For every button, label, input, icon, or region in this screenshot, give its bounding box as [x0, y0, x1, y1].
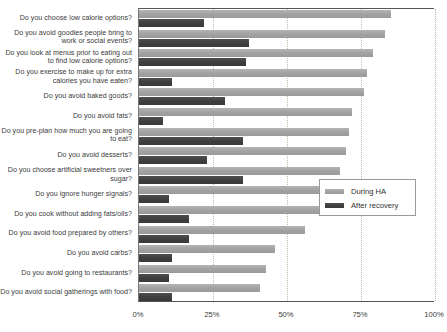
bar-during-ha: [139, 284, 260, 292]
category-label: Do you pre-plan how much you are going t…: [0, 127, 132, 144]
category-label: Do you choose low calorie options?: [0, 14, 132, 22]
category-axis-labels: Do you choose low calorie options?Do you…: [0, 8, 136, 302]
category-label: Do you ignore hunger signals?: [0, 190, 132, 198]
category-label: Do you avoid desserts?: [0, 151, 132, 159]
category-label: Do you avoid fats?: [0, 112, 132, 120]
category-label: Do you look at menus prior to eating out…: [0, 49, 132, 66]
x-axis-tick-label: 75%: [352, 310, 367, 319]
category-label: Do you choose artificial sweetners over …: [0, 166, 132, 183]
bar-after-recovery: [139, 176, 243, 184]
bar-during-ha: [139, 206, 328, 214]
category-label: Do you avoid food prepared by others?: [0, 229, 132, 237]
category-label: Do you avoid social gatherings with food…: [0, 288, 132, 296]
category-label: Do you exercise to make up for extra cal…: [0, 68, 132, 85]
x-axis-tick-label: 50%: [278, 310, 293, 319]
bar-during-ha: [139, 226, 305, 234]
bar-after-recovery: [139, 58, 246, 66]
bar-after-recovery: [139, 78, 172, 86]
bar-row: [139, 244, 434, 264]
bar-during-ha: [139, 49, 373, 57]
bar-row: [139, 264, 434, 284]
bar-row: [139, 283, 434, 303]
bar-after-recovery: [139, 19, 204, 27]
bar-during-ha: [139, 147, 346, 155]
bar-during-ha: [139, 108, 352, 116]
category-label: Do you cook without adding fats/oils?: [0, 210, 132, 218]
legend-label-during-ha: During HA: [351, 187, 386, 196]
bar-after-recovery: [139, 195, 169, 203]
bar-during-ha: [139, 30, 385, 38]
bar-row: [139, 68, 434, 88]
bar-row: [139, 146, 434, 166]
bar-row: [139, 127, 434, 147]
bar-after-recovery: [139, 39, 249, 47]
bar-after-recovery: [139, 254, 172, 262]
legend-label-after-recovery: After recovery: [351, 201, 398, 210]
bar-during-ha: [139, 69, 367, 77]
bar-during-ha: [139, 245, 275, 253]
plot-area: [138, 8, 434, 302]
x-axis-tick-label: 0%: [133, 310, 144, 319]
bar-during-ha: [139, 167, 340, 175]
bar-row: [139, 29, 434, 49]
bar-during-ha: [139, 186, 340, 194]
bar-row: [139, 9, 434, 29]
bar-during-ha: [139, 265, 266, 273]
gridline: [435, 9, 436, 301]
bar-during-ha: [139, 88, 364, 96]
legend: During HA After recovery: [319, 179, 416, 216]
category-label: Do you avoid goodies people bring to wor…: [0, 29, 132, 46]
bar-rows: [139, 9, 434, 301]
bar-during-ha: [139, 10, 391, 18]
bar-after-recovery: [139, 293, 172, 301]
bar-after-recovery: [139, 137, 243, 145]
x-axis-tick-label: 100%: [424, 310, 443, 319]
bar-after-recovery: [139, 156, 207, 164]
horizontal-bar-chart: Do you choose low calorie options?Do you…: [0, 0, 447, 332]
category-label: Do you avoid baked goods?: [0, 92, 132, 100]
bar-row: [139, 48, 434, 68]
legend-swatch-icon-after-recovery: [325, 203, 344, 208]
bar-after-recovery: [139, 117, 163, 125]
bar-after-recovery: [139, 274, 169, 282]
bar-during-ha: [139, 128, 349, 136]
bar-after-recovery: [139, 215, 189, 223]
legend-item-after-recovery: After recovery: [325, 198, 410, 212]
value-axis-labels: 0%25%50%75%100%: [138, 304, 434, 326]
bar-after-recovery: [139, 235, 189, 243]
bar-row: [139, 225, 434, 245]
bar-after-recovery: [139, 97, 225, 105]
legend-swatch-icon-during-ha: [325, 189, 344, 194]
legend-item-during-ha: During HA: [325, 184, 410, 198]
bar-row: [139, 107, 434, 127]
bar-row: [139, 87, 434, 107]
category-label: Do you avoid going to restaurants?: [0, 269, 132, 277]
x-axis-tick-label: 25%: [204, 310, 219, 319]
category-label: Do you avoid carbs?: [0, 249, 132, 257]
